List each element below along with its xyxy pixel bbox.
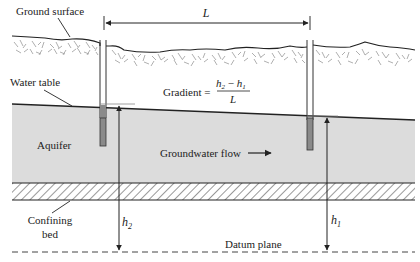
confining-bed-leader bbox=[52, 201, 70, 213]
well-screen-right bbox=[307, 118, 313, 150]
head-h1-label: h1 bbox=[331, 213, 341, 229]
water-table-label: Water table bbox=[10, 76, 60, 88]
aquifer bbox=[12, 104, 415, 183]
aquifer-label: Aquifer bbox=[37, 139, 72, 151]
ground-surface-label: Ground surface bbox=[16, 5, 84, 17]
confining-bed-label-line1: Confining bbox=[28, 214, 73, 226]
distance-dimension: L bbox=[104, 6, 310, 30]
groundwater-diagram: L h2 h1 Ground surface Water table Aquif… bbox=[0, 0, 420, 262]
gradient-denominator: L bbox=[229, 93, 236, 105]
ground-surface-leader bbox=[58, 18, 70, 37]
well-screen-left bbox=[100, 105, 106, 118]
datum-plane-label: Datum plane bbox=[225, 238, 282, 250]
ground-surface bbox=[12, 36, 415, 66]
water-table-leader bbox=[44, 90, 72, 106]
soil-texture bbox=[14, 40, 412, 66]
distance-label: L bbox=[202, 6, 210, 20]
gradient-formula: Gradient = h2 − h1 L bbox=[163, 77, 250, 105]
gradient-lhs: Gradient = bbox=[163, 86, 210, 98]
confining-bed bbox=[12, 183, 415, 200]
head-h2-label: h2 bbox=[122, 215, 132, 231]
confining-bed-label-line2: bed bbox=[42, 228, 58, 240]
groundwater-flow-label: Groundwater flow bbox=[160, 147, 241, 159]
gradient-numerator: h2 − h1 bbox=[216, 77, 246, 91]
